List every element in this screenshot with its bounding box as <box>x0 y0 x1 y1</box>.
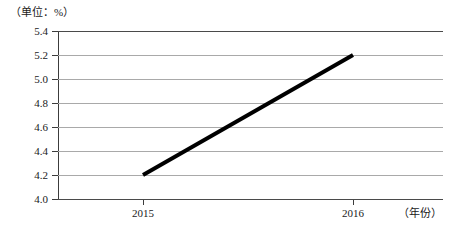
y-tick-4-8 <box>52 103 58 104</box>
y-tick-label-5-2: 5.2 <box>14 50 48 61</box>
y-tick-5-0 <box>52 79 58 80</box>
gridline-4-8 <box>58 103 443 104</box>
gridline-5-2 <box>58 55 443 56</box>
y-tick-label-5-4: 5.4 <box>14 26 48 37</box>
y-tick-label-4-4: 4.4 <box>14 146 48 157</box>
x-tick-2016 <box>353 200 354 205</box>
gridline-5-0 <box>58 79 443 80</box>
y-tick-label-4-6: 4.6 <box>14 122 48 133</box>
gridline-4-6 <box>58 127 443 128</box>
line-chart: （单位：%） 5.4 5.2 5.0 4.8 4.6 4.4 4.2 4.0 2… <box>0 0 458 240</box>
y-tick-label-5-0: 5.0 <box>14 74 48 85</box>
gridline-4-2 <box>58 175 443 176</box>
plot-area <box>58 31 443 199</box>
x-tick-2015 <box>143 200 144 205</box>
y-tick-5-2 <box>52 55 58 56</box>
y-tick-4-6 <box>52 127 58 128</box>
gridline-5-4 <box>58 31 443 32</box>
x-axis-unit-caption: （年份） <box>398 207 442 220</box>
x-tick-label-2016: 2016 <box>342 207 364 220</box>
y-tick-label-4-2: 4.2 <box>14 170 48 181</box>
y-tick-label-4-8: 4.8 <box>14 98 48 109</box>
x-axis-line <box>58 199 443 200</box>
y-tick-4-0 <box>52 199 58 200</box>
y-tick-5-4 <box>52 31 58 32</box>
y-tick-4-2 <box>52 175 58 176</box>
x-tick-label-2015: 2015 <box>132 207 154 220</box>
y-tick-label-4-0: 4.0 <box>14 194 48 205</box>
y-tick-4-4 <box>52 151 58 152</box>
y-axis-tick-labels: 5.4 5.2 5.0 4.8 4.6 4.4 4.2 4.0 <box>10 0 48 240</box>
gridline-4-4 <box>58 151 443 152</box>
